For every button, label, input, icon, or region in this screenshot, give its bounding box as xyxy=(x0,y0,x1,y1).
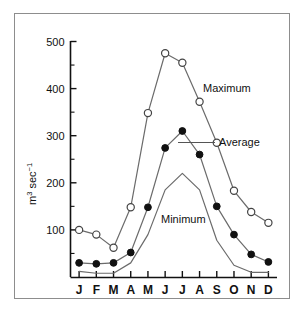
data-point-average-S-8 xyxy=(213,203,220,210)
y-tick-label-300: 300 xyxy=(46,130,64,142)
average-series-label: Average xyxy=(219,136,260,148)
data-point-average-M-4 xyxy=(145,204,152,211)
data-point-maximum-A-3 xyxy=(127,204,134,211)
data-point-average-O-9 xyxy=(231,231,238,238)
data-point-average-J-6 xyxy=(179,128,186,135)
x-tick-label-7: A xyxy=(195,283,204,297)
data-point-average-A-7 xyxy=(196,151,203,158)
y-axis-title: m3 sec−1 xyxy=(25,163,38,205)
x-tick-label-10: N xyxy=(247,283,256,297)
x-axis-tick-labels: JFMAMJJASOND xyxy=(76,283,273,297)
x-tick-label-2: M xyxy=(109,283,119,297)
data-point-maximum-M-4 xyxy=(144,109,151,116)
data-point-maximum-O-9 xyxy=(230,187,237,194)
x-tick-label-1: F xyxy=(93,283,100,297)
y-tick-label-400: 400 xyxy=(46,83,64,95)
y-axis-tick-labels: 100200300400500 xyxy=(46,36,64,236)
data-point-average-N-10 xyxy=(248,251,255,258)
y-axis-title-sec: sec xyxy=(26,171,38,192)
data-point-maximum-M-2 xyxy=(110,244,117,251)
x-tick-label-11: D xyxy=(264,283,273,297)
data-point-average-M-2 xyxy=(110,259,117,266)
x-tick-label-4: M xyxy=(143,283,153,297)
x-tick-label-6: J xyxy=(179,283,186,297)
data-point-maximum-N-10 xyxy=(248,208,255,215)
maximum-series-label: Maximum xyxy=(203,82,251,94)
y-axis-ticks xyxy=(71,42,77,254)
data-point-average-F-1 xyxy=(93,260,100,267)
data-point-maximum-J-0 xyxy=(76,226,83,233)
data-point-average-D-11 xyxy=(265,259,272,266)
x-tick-label-0: J xyxy=(76,283,83,297)
data-point-maximum-F-1 xyxy=(93,231,100,238)
x-axis-ticks xyxy=(79,271,268,277)
y-tick-label-500: 500 xyxy=(46,36,64,48)
y-tick-label-100: 100 xyxy=(46,224,64,236)
x-tick-label-8: S xyxy=(213,283,221,297)
x-tick-label-5: J xyxy=(162,283,169,297)
data-point-maximum-J-5 xyxy=(162,50,169,57)
data-point-maximum-A-7 xyxy=(196,98,203,105)
minimum-series-label: Minimum xyxy=(161,213,206,225)
y-tick-label-200: 200 xyxy=(46,177,64,189)
data-point-maximum-D-11 xyxy=(265,219,272,226)
data-point-maximum-J-6 xyxy=(179,59,186,66)
data-point-average-J-5 xyxy=(162,145,169,152)
discharge-line-chart: 100200300400500 JFMAMJJASOND m3 sec−1 Ma… xyxy=(0,0,306,314)
y-axis-title-m: m xyxy=(26,196,38,205)
x-tick-label-3: A xyxy=(126,283,135,297)
x-tick-label-9: O xyxy=(229,283,238,297)
data-point-average-J-0 xyxy=(76,259,83,266)
data-point-average-A-3 xyxy=(127,249,134,256)
y-axis-title-unit-exponent: −1 xyxy=(25,163,34,172)
